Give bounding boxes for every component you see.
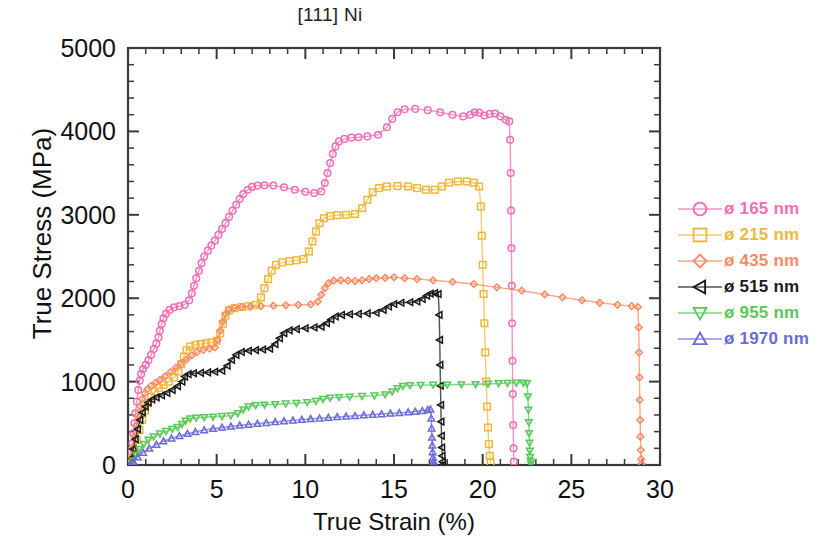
y-tick-label: 5000 — [60, 34, 116, 62]
legend-item-4[interactable]: ø 955 nm — [676, 300, 838, 326]
y-tick-label: 4000 — [60, 117, 116, 145]
data-series — [127, 406, 437, 468]
y-axis-label: True Stress (MPa) — [27, 24, 58, 444]
y-tick-label: 1000 — [60, 368, 116, 396]
data-series — [126, 380, 534, 468]
x-tick-label: 10 — [291, 475, 319, 503]
triangle-up-icon — [676, 326, 724, 352]
triangle-down-icon — [676, 300, 724, 326]
diamond-icon — [676, 248, 724, 274]
legend-item-3[interactable]: ø 515 nm — [676, 274, 838, 300]
legend-item-0[interactable]: ø 165 nm — [676, 196, 838, 222]
series-markers — [127, 406, 437, 468]
legend-label: ø 515 nm — [724, 277, 799, 297]
circle-icon — [676, 196, 724, 222]
x-tick-label: 0 — [121, 475, 135, 503]
x-tick-label: 15 — [380, 475, 408, 503]
axis-tick-labels: 051015202530010002000300040005000 — [60, 34, 674, 503]
triangle-left-icon — [676, 274, 724, 300]
legend-label: ø 955 nm — [724, 303, 799, 323]
legend-item-1[interactable]: ø 215 nm — [676, 222, 838, 248]
series-markers — [126, 380, 534, 468]
legend-label: ø 215 nm — [724, 225, 799, 245]
legend-label: ø 1970 nm — [724, 329, 809, 349]
series-line — [130, 409, 434, 465]
series-line — [129, 109, 514, 465]
square-icon — [676, 222, 724, 248]
legend-item-5[interactable]: ø 1970 nm — [676, 326, 838, 352]
x-tick-label: 20 — [469, 475, 497, 503]
series-markers — [126, 106, 518, 469]
y-tick-label: 2000 — [60, 284, 116, 312]
chart-page: [111] Ni 0510152025300100020003000400050… — [0, 0, 838, 545]
y-tick-label: 3000 — [60, 201, 116, 229]
legend-label: ø 165 nm — [724, 199, 799, 219]
legend-label: ø 435 nm — [724, 251, 799, 271]
x-tick-label: 5 — [210, 475, 224, 503]
data-series — [126, 106, 518, 469]
x-tick-label: 30 — [646, 475, 674, 503]
series-line — [129, 293, 443, 465]
legend-item-2[interactable]: ø 435 nm — [676, 248, 838, 274]
x-axis-label: True Strain (%) — [128, 508, 660, 536]
y-tick-label: 0 — [102, 451, 116, 479]
legend: ø 165 nmø 215 nmø 435 nmø 515 nmø 955 nm… — [676, 196, 838, 352]
data-series-group — [126, 106, 645, 469]
x-tick-label: 25 — [557, 475, 585, 503]
